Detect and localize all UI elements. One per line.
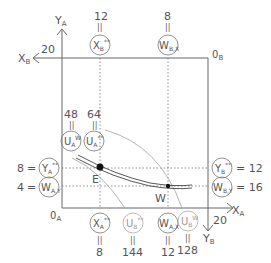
svg-text:12: 12 bbox=[94, 10, 108, 23]
right-label-yb-star: YB** = 12 bbox=[212, 158, 263, 178]
bottom-label-ub-star: UB** || 144 bbox=[122, 213, 143, 259]
axis-ya bbox=[57, 29, 67, 58]
svg-text:WA,X: WA,X bbox=[159, 218, 179, 230]
svg-text:||: || bbox=[92, 121, 97, 130]
svg-text:||: || bbox=[185, 234, 190, 243]
label-ua-w: 48 || UAW bbox=[61, 108, 81, 151]
point-w bbox=[166, 184, 170, 188]
svg-text:YA**: YA** bbox=[41, 161, 58, 175]
svg-text:||: || bbox=[69, 121, 74, 130]
point-e bbox=[97, 164, 104, 171]
right-label-wby: WB,Y = 16 bbox=[212, 177, 263, 197]
svg-text:||: || bbox=[165, 236, 170, 245]
svg-text:XA**: XA** bbox=[93, 216, 110, 230]
svg-text:4: 4 bbox=[17, 181, 24, 194]
svg-text:8: 8 bbox=[96, 246, 103, 259]
svg-text:UAW: UAW bbox=[64, 134, 81, 148]
bottom-label-ub-w: UBW || 128 bbox=[177, 211, 198, 257]
svg-text:8: 8 bbox=[164, 10, 171, 23]
label-0b: 0B bbox=[212, 49, 223, 62]
svg-text:UB**: UB** bbox=[126, 216, 143, 230]
label-xa: XA bbox=[232, 204, 245, 218]
axis-xa bbox=[208, 203, 233, 213]
svg-text:144: 144 bbox=[122, 246, 143, 259]
label-20-top: 20 bbox=[41, 43, 55, 56]
label-0a: 0A bbox=[50, 210, 61, 223]
svg-text:WB,Y: WB,Y bbox=[213, 182, 233, 194]
label-yb: YB bbox=[202, 232, 215, 246]
label-w: W bbox=[155, 192, 166, 205]
svg-text:||: || bbox=[97, 236, 102, 245]
left-label-ya-star: 8 = YA** bbox=[17, 158, 59, 178]
label-xb: XB bbox=[18, 52, 31, 66]
svg-text:XB**: XB** bbox=[93, 38, 110, 52]
left-label-way: 4 = WA,Y bbox=[17, 177, 61, 197]
svg-text:YB**: YB** bbox=[214, 161, 231, 175]
top-label-wbx: 8 || WB,X bbox=[158, 10, 179, 55]
top-label-xb-star: 12 || XB** bbox=[90, 10, 110, 55]
svg-text:64: 64 bbox=[87, 108, 101, 121]
svg-text:WA,Y: WA,Y bbox=[41, 182, 61, 194]
svg-text:||: || bbox=[165, 23, 170, 32]
svg-text:48: 48 bbox=[64, 108, 78, 121]
svg-text:= 16: = 16 bbox=[236, 181, 263, 194]
svg-text:12: 12 bbox=[161, 246, 175, 259]
svg-text:= 12: = 12 bbox=[236, 162, 263, 175]
label-ua-star: 64 || UA** bbox=[84, 108, 104, 151]
svg-text:=: = bbox=[27, 181, 36, 194]
bottom-label-wax: WA,X || 12 bbox=[158, 213, 179, 259]
svg-text:8: 8 bbox=[17, 162, 24, 175]
svg-text:128: 128 bbox=[177, 244, 198, 257]
svg-text:=: = bbox=[27, 162, 36, 175]
edgeworth-box-diagram: YA XB 20 0B 0A XA 20 YB E W 12 || XB** 8… bbox=[0, 0, 271, 263]
label-ya: YA bbox=[54, 14, 67, 28]
svg-text:UA**: UA** bbox=[86, 134, 103, 148]
label-e: E bbox=[92, 173, 99, 186]
svg-text:WB,X: WB,X bbox=[159, 40, 179, 52]
axis-yb bbox=[203, 208, 213, 231]
svg-text:||: || bbox=[130, 236, 135, 245]
svg-text:UBW: UBW bbox=[181, 214, 198, 228]
svg-text:||: || bbox=[97, 23, 102, 32]
bottom-label-xa-star: XA** || 8 bbox=[90, 213, 110, 259]
label-20-bottom: 20 bbox=[213, 214, 227, 227]
